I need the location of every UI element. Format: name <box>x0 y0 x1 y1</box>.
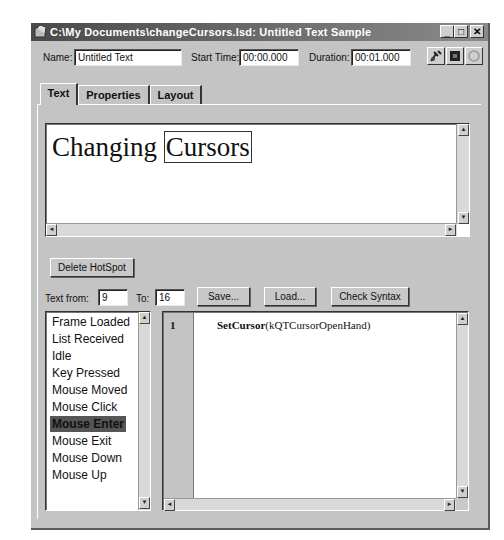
minimize-button[interactable]: _ <box>440 25 454 38</box>
scroll-right-icon: ► <box>448 226 454 232</box>
event-list-scroll-up[interactable]: ▲ <box>139 312 150 324</box>
text-editor[interactable]: Changing Cursors ▲ ▼ ◄ ► <box>45 123 470 237</box>
stop-icon <box>447 48 463 64</box>
start-time-label: Start Time: <box>191 52 239 63</box>
line-number: 1 <box>170 319 176 331</box>
script-args: (kQTCursorOpenHand) <box>265 319 370 331</box>
script-scroll-right[interactable]: ► <box>444 499 455 511</box>
name-label: Name: <box>43 52 72 63</box>
save-button[interactable]: Save... <box>197 287 250 306</box>
event-item-mouse-enter[interactable]: Mouse Enter <box>50 416 126 432</box>
event-item-mouse-click[interactable]: Mouse Click <box>50 399 119 415</box>
minimize-icon: _ <box>444 26 450 37</box>
script-scroll-up[interactable]: ▲ <box>457 313 468 325</box>
event-item-idle[interactable]: Idle <box>50 348 73 364</box>
name-field[interactable]: Untitled Text <box>74 49 182 66</box>
script-editor[interactable]: 1 SetCursor(kQTCursorOpenHand) ▲ ▼ ◄ ► <box>162 311 469 511</box>
text-to-field[interactable]: 16 <box>155 289 185 306</box>
event-item-mouse-moved[interactable]: Mouse Moved <box>50 382 129 398</box>
tab-layout[interactable]: Layout <box>150 85 202 104</box>
scroll-down-button[interactable]: ▼ <box>458 212 469 224</box>
event-list[interactable]: Frame Loaded List Received Idle Key Pres… <box>45 311 151 511</box>
refresh-tool-button[interactable] <box>465 47 483 65</box>
script-keyword: SetCursor <box>217 319 265 331</box>
event-item-mouse-down[interactable]: Mouse Down <box>50 450 124 466</box>
scroll-down-icon: ▼ <box>460 488 466 494</box>
scroll-right-icon: ► <box>447 501 453 507</box>
start-time-field[interactable]: 00:00.000 <box>239 49 299 66</box>
hotspot-text[interactable]: Cursors <box>164 131 252 163</box>
text-editor-vertical-scrollbar[interactable]: ▲ ▼ <box>456 124 469 224</box>
text-editor-horizontal-scrollbar[interactable]: ◄ ► <box>46 223 457 236</box>
script-scroll-left[interactable]: ◄ <box>164 499 175 511</box>
load-button[interactable]: Load... <box>264 287 316 306</box>
event-item-frame-loaded[interactable]: Frame Loaded <box>50 314 132 330</box>
scroll-down-icon: ▼ <box>461 214 467 220</box>
event-item-mouse-up[interactable]: Mouse Up <box>50 467 109 483</box>
delete-hotspot-button[interactable]: Delete HotSpot <box>50 258 134 277</box>
window-title: C:\My Documents\changeCursors.lsd: Untit… <box>50 23 371 41</box>
scroll-up-icon: ▲ <box>461 126 467 132</box>
scroll-left-icon: ◄ <box>167 501 173 507</box>
scroll-up-icon: ▲ <box>460 315 466 321</box>
stop-tool-button[interactable] <box>446 47 464 65</box>
script-line[interactable]: SetCursor(kQTCursorOpenHand) <box>217 319 370 331</box>
line-number-gutter: 1 <box>164 313 194 498</box>
scroll-up-icon: ▲ <box>142 314 148 320</box>
text-from-field[interactable]: 9 <box>98 289 128 306</box>
tab-text[interactable]: Text <box>40 83 78 105</box>
duration-field[interactable]: 00:01.000 <box>351 49 411 66</box>
app-icon <box>34 25 48 39</box>
script-text-area[interactable]: SetCursor(kQTCursorOpenHand) <box>194 313 456 498</box>
script-scroll-down[interactable]: ▼ <box>457 486 468 498</box>
close-button[interactable]: ✕ <box>470 25 484 38</box>
hotspot-pointer-icon <box>428 48 444 64</box>
scroll-down-icon: ▼ <box>142 499 148 505</box>
script-horizontal-scrollbar[interactable]: ◄ ► <box>164 498 456 510</box>
script-vertical-scrollbar[interactable]: ▲ ▼ <box>456 313 468 498</box>
duration-label: Duration: <box>309 52 350 63</box>
check-syntax-button[interactable]: Check Syntax <box>331 287 409 306</box>
event-list-scroll-down[interactable]: ▼ <box>139 497 150 509</box>
plain-text: Changing <box>52 132 164 162</box>
scroll-left-icon: ◄ <box>49 226 55 232</box>
scroll-up-button[interactable]: ▲ <box>458 124 469 136</box>
refresh-icon <box>466 48 482 64</box>
hotspot-tool-button[interactable] <box>427 47 445 65</box>
text-from-label: Text from: <box>45 293 89 304</box>
scroll-left-button[interactable]: ◄ <box>46 224 57 236</box>
tab-properties[interactable]: Properties <box>78 85 150 104</box>
close-icon: ✕ <box>473 26 481 37</box>
event-item-list-received[interactable]: List Received <box>50 331 126 347</box>
event-item-mouse-exit[interactable]: Mouse Exit <box>50 433 113 449</box>
event-item-key-pressed[interactable]: Key Pressed <box>50 365 122 381</box>
text-sample-window: C:\My Documents\changeCursors.lsd: Untit… <box>31 23 490 530</box>
event-list-scrollbar[interactable]: ▲ ▼ <box>138 312 150 510</box>
to-label: To: <box>136 293 149 304</box>
scroll-right-button[interactable]: ► <box>445 224 456 236</box>
maximize-button[interactable]: □ <box>454 25 468 38</box>
maximize-icon: □ <box>458 26 464 37</box>
title-bar[interactable]: C:\My Documents\changeCursors.lsd: Untit… <box>31 23 488 41</box>
text-content[interactable]: Changing Cursors <box>52 132 252 163</box>
